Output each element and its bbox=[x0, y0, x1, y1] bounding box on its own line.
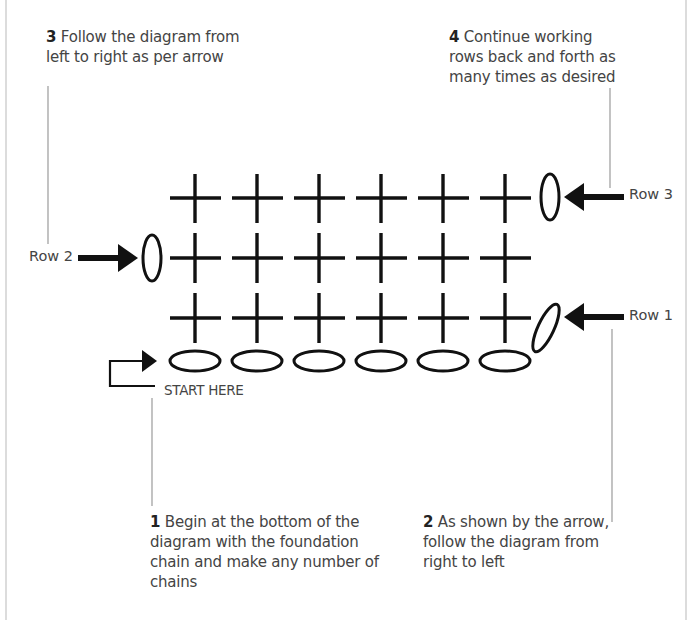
turning-chain-row-1-icon bbox=[528, 301, 564, 355]
start-here-arrow-icon bbox=[110, 350, 157, 386]
single-crochet-icon bbox=[418, 233, 469, 283]
single-crochet-icon bbox=[294, 174, 345, 223]
single-crochet-icon bbox=[294, 233, 345, 283]
chain-stitch-icon bbox=[418, 351, 468, 371]
single-crochet-icon bbox=[232, 293, 283, 343]
chain-stitch-icon bbox=[480, 351, 530, 371]
single-crochet-icon bbox=[480, 293, 531, 343]
chain-stitch-icon bbox=[170, 351, 220, 371]
single-crochet-icon bbox=[170, 293, 221, 343]
chain-stitch-icon bbox=[356, 351, 406, 371]
turning-chain-row-3-icon bbox=[541, 174, 559, 220]
foundation-chain bbox=[170, 351, 530, 371]
row-2-arrow-icon bbox=[78, 244, 138, 272]
chain-stitch-icon bbox=[294, 351, 344, 371]
single-crochet-icon bbox=[232, 233, 283, 283]
single-crochet-icon bbox=[480, 174, 531, 223]
single-crochet-icon bbox=[356, 174, 407, 223]
row-3-stitches bbox=[170, 174, 531, 223]
row-1-stitches bbox=[170, 293, 531, 343]
leader-lines bbox=[48, 86, 612, 522]
single-crochet-icon bbox=[418, 174, 469, 223]
single-crochet-icon bbox=[232, 174, 283, 223]
single-crochet-icon bbox=[418, 293, 469, 343]
row-3-arrow-icon bbox=[564, 183, 624, 211]
turning-chain-row-2-icon bbox=[143, 235, 161, 281]
row-1-arrow-icon bbox=[564, 303, 624, 331]
single-crochet-icon bbox=[356, 293, 407, 343]
single-crochet-icon bbox=[356, 233, 407, 283]
row-2-stitches bbox=[170, 233, 531, 283]
single-crochet-icon bbox=[294, 293, 345, 343]
single-crochet-icon bbox=[170, 174, 221, 223]
crochet-chart bbox=[0, 0, 694, 620]
single-crochet-icon bbox=[480, 233, 531, 283]
chain-stitch-icon bbox=[232, 351, 282, 371]
single-crochet-icon bbox=[170, 233, 221, 283]
